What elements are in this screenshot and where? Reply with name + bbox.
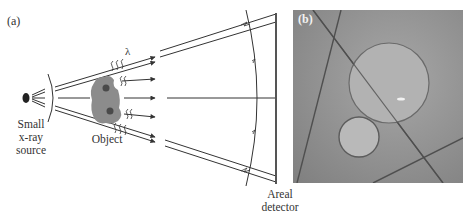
- fiber-3: [373, 138, 463, 183]
- aperture-arc: [48, 74, 53, 122]
- object-label: Object: [84, 133, 130, 146]
- phase-contrast-scene: [293, 10, 463, 183]
- xray-source-icon: [23, 93, 30, 103]
- source-label: Small x-ray source: [8, 118, 54, 157]
- object-shape: [91, 76, 121, 124]
- object-inclusion-1: [103, 85, 110, 92]
- fiber-1: [297, 10, 341, 183]
- object-inclusion-2: [107, 108, 114, 115]
- wavelength-label: λ: [125, 45, 130, 58]
- phase-contrast-image: (b): [293, 10, 463, 183]
- figure: (a) λ Small x-ray source Object Areal de…: [0, 0, 474, 216]
- panel-b-label: (b): [298, 12, 313, 27]
- panel-a-schematic: [0, 0, 300, 216]
- panel-a-label: (a): [7, 15, 20, 28]
- small-sphere: [339, 117, 379, 157]
- detector-label: Areal detector: [258, 188, 302, 214]
